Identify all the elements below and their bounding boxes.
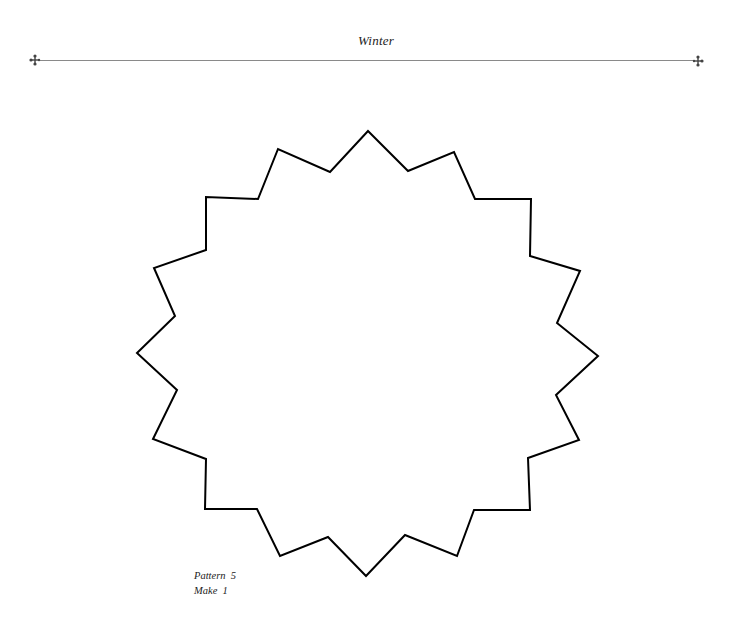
pattern-caption: Pattern 5 Make 1 <box>194 568 236 598</box>
star-pattern-outline <box>0 0 752 630</box>
star-shape <box>137 131 598 576</box>
pattern-number-label: Pattern 5 <box>194 568 236 583</box>
make-count-label: Make 1 <box>194 583 236 598</box>
